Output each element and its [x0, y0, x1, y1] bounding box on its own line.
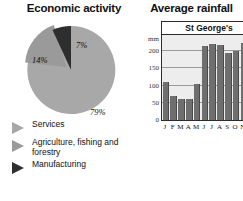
x-tick-N-10: N [239, 123, 243, 131]
economic-activity-panel: Economic activity 79% 14% 7% Services Ag… [0, 0, 148, 201]
bar-M [178, 99, 185, 120]
page-title-average-rainfall: Average rainfall [144, 2, 239, 14]
x-tick-A-7: A [216, 123, 224, 131]
pie-legend: Services Agriculture, fishing and forest… [10, 120, 148, 178]
x-tick-M-4: M [192, 123, 200, 131]
pie-label-manufacturing: 7% [76, 40, 87, 50]
x-axis-labels: JFMAMJJASOND [161, 123, 243, 135]
legend-item-agriculture: Agriculture, fishing and forestry [10, 138, 148, 157]
legend-label-agriculture: Agriculture, fishing and forestry [32, 138, 148, 157]
y-tick-100: 100 [149, 82, 160, 90]
x-tick-J-6: J [208, 123, 216, 131]
bar-J [163, 82, 170, 120]
bar-chart: St George's [161, 21, 243, 121]
pie-label-agriculture: 14% [32, 55, 48, 65]
x-tick-J-0: J [161, 123, 169, 131]
x-tick-S-8: S [223, 123, 231, 131]
triangle-right-icon [10, 121, 26, 135]
bar-S [225, 53, 232, 120]
bar-A [186, 99, 193, 120]
y-axis-labels: mm050100150200 [148, 21, 161, 121]
x-tick-A-3: A [184, 123, 192, 131]
average-rainfall-panel: Average rainfall mm050100150200 St Georg… [148, 0, 243, 201]
legend-item-manufacturing: Manufacturing [10, 160, 148, 175]
y-tick-200: 200 [149, 47, 160, 55]
y-tick-50: 50 [152, 99, 159, 107]
bar-O [233, 51, 240, 120]
y-tick-0: 0 [156, 116, 160, 124]
pie-chart-svg [24, 23, 116, 115]
legend-label-services: Services [32, 120, 65, 130]
y-axis-unit-label: mm [148, 35, 159, 43]
triangle-right-icon [10, 161, 26, 175]
y-tick-150: 150 [149, 64, 160, 72]
station-header: St George's [162, 22, 243, 35]
x-tick-J-5: J [200, 123, 208, 131]
x-tick-F-1: F [169, 123, 177, 131]
station-label: St George's [162, 22, 243, 34]
page-title-economic-activity: Economic activity [0, 2, 148, 14]
bar-M [194, 84, 201, 120]
x-tick-O-9: O [231, 123, 239, 131]
pie-label-services: 79% [90, 107, 106, 117]
bar-J [209, 44, 216, 120]
x-tick-M-2: M [177, 123, 185, 131]
pie-chart: 79% 14% 7% [24, 23, 116, 115]
bar-J [202, 46, 209, 120]
bar-F [170, 96, 177, 120]
bar-A [217, 45, 224, 120]
legend-label-manufacturing: Manufacturing [32, 160, 86, 170]
legend-item-services: Services [10, 120, 148, 135]
triangle-right-icon [10, 139, 26, 153]
bar-N [241, 43, 243, 120]
bar-chart-plot-area [162, 35, 243, 120]
